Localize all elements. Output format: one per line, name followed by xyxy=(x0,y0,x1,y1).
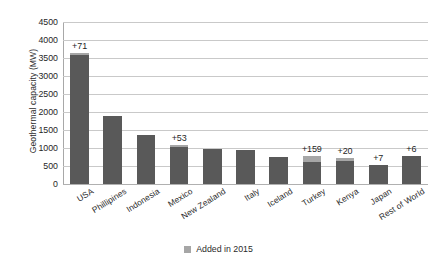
bar-new-zealand xyxy=(203,149,222,184)
bar-value-label-rest-of-world: +6 xyxy=(406,144,416,154)
plot-area: +71+53+159+20+7+6 xyxy=(63,22,428,184)
gridline-2000 xyxy=(63,112,428,113)
x-label-kenya: Kenya xyxy=(334,186,360,207)
y-tick-label-4500: 4500 xyxy=(16,17,58,27)
x-label-indonesia: Indonesia xyxy=(124,186,161,214)
bar-segment-existing-mexico xyxy=(170,147,189,184)
gridline-0 xyxy=(63,184,428,185)
x-label-japan: Japan xyxy=(368,186,393,207)
x-axis-category-labels: USAPhillipinesIndonesiaMexicoNew Zealand… xyxy=(63,186,428,246)
bar-usa: +71 xyxy=(70,53,89,184)
bar-segment-existing-rest-of-world xyxy=(402,156,421,184)
y-tick-label-500: 500 xyxy=(16,161,58,171)
y-tick-label-0: 0 xyxy=(16,179,58,189)
gridline-2500 xyxy=(63,94,428,95)
y-tick-label-1500: 1500 xyxy=(16,125,58,135)
bar-iceland xyxy=(269,157,288,184)
y-tick-label-2500: 2500 xyxy=(16,89,58,99)
bar-segment-existing-new-zealand xyxy=(203,149,222,184)
bar-segment-existing-iceland xyxy=(269,157,288,184)
y-axis-tick-labels: 450040003500300025002000150010005000 xyxy=(14,22,58,184)
gridline-3500 xyxy=(63,58,428,59)
geothermal-capacity-bar-chart: Geothermal capacity (MW) 450040003500300… xyxy=(0,0,437,270)
bar-mexico: +53 xyxy=(170,145,189,184)
y-tick-label-3000: 3000 xyxy=(16,71,58,81)
bar-value-label-usa: +71 xyxy=(72,41,87,51)
x-label-usa: USA xyxy=(75,186,95,204)
y-tick-label-2000: 2000 xyxy=(16,107,58,117)
bar-value-label-kenya: +20 xyxy=(338,146,353,156)
legend-swatch-added-in-2015 xyxy=(184,246,191,253)
bar-segment-existing-usa xyxy=(70,55,89,184)
bar-japan: +7 xyxy=(369,165,388,184)
x-label-phillipines: Phillipines xyxy=(90,186,128,215)
bar-value-label-turkey: +159 xyxy=(302,144,322,154)
gridline-4500 xyxy=(63,22,428,23)
gridline-4000 xyxy=(63,40,428,41)
y-tick-label-4000: 4000 xyxy=(16,35,58,45)
bar-segment-existing-italy xyxy=(236,150,255,184)
bar-kenya: +20 xyxy=(336,158,355,184)
x-label-iceland: Iceland xyxy=(265,186,294,209)
x-label-turkey: Turkey xyxy=(300,186,327,208)
bar-italy xyxy=(236,150,255,184)
chart-legend: Added in 2015 xyxy=(0,244,437,254)
bar-value-label-japan: +7 xyxy=(373,153,383,163)
x-label-italy: Italy xyxy=(242,186,261,203)
gridline-3000 xyxy=(63,76,428,77)
bar-segment-existing-indonesia xyxy=(137,135,156,184)
bar-segment-existing-turkey xyxy=(303,162,322,184)
bar-phillipines xyxy=(103,116,122,184)
bar-indonesia xyxy=(137,135,156,184)
bar-segment-existing-kenya xyxy=(336,161,355,184)
bar-segment-existing-phillipines xyxy=(103,116,122,184)
bar-turkey: +159 xyxy=(303,156,322,184)
legend-label-added-in-2015: Added in 2015 xyxy=(196,244,253,254)
y-tick-label-1000: 1000 xyxy=(16,143,58,153)
bar-value-label-mexico: +53 xyxy=(172,133,187,143)
y-tick-label-3500: 3500 xyxy=(16,53,58,63)
bar-segment-existing-japan xyxy=(369,165,388,184)
bar-rest-of-world: +6 xyxy=(402,156,421,184)
